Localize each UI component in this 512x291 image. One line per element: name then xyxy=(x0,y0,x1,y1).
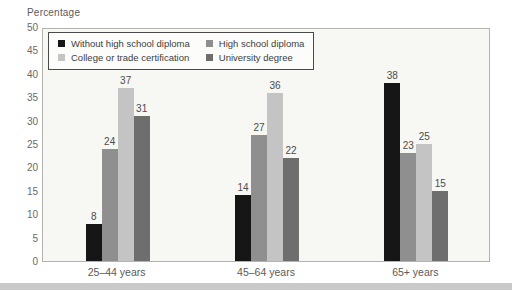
bar-value-label: 37 xyxy=(120,75,131,86)
y-tick-label: 35 xyxy=(8,92,38,104)
bar: 8 xyxy=(86,224,102,261)
bar-value-label: 25 xyxy=(419,131,430,142)
bar-group-65+-years: 38232515 xyxy=(384,83,448,261)
bar-group-45-64-years: 14273622 xyxy=(235,93,299,261)
bar: 25 xyxy=(416,144,432,261)
legend-swatch-icon xyxy=(206,40,213,47)
legend-swatch-icon xyxy=(58,40,65,47)
legend-label: University degree xyxy=(219,52,293,63)
bar: 27 xyxy=(251,135,267,261)
x-axis-label: 25–44 years xyxy=(88,266,146,278)
legend-entry: University degree xyxy=(206,52,305,63)
legend-entry: High school diploma xyxy=(206,38,305,49)
y-tick-label: 50 xyxy=(8,22,38,34)
bar: 23 xyxy=(400,153,416,261)
education-percentage-chart: Percentage 05101520253035404550 Without … xyxy=(0,0,512,291)
bar-value-label: 36 xyxy=(269,80,280,91)
bar-value-label: 38 xyxy=(387,70,398,81)
y-tick-label: 45 xyxy=(8,45,38,57)
bar: 31 xyxy=(134,116,150,261)
legend-label: High school diploma xyxy=(219,38,305,49)
bar: 36 xyxy=(267,93,283,261)
bar-group-25-44-years: 8243731 xyxy=(86,88,150,261)
bar-value-label: 22 xyxy=(285,145,296,156)
bar: 37 xyxy=(118,88,134,261)
bar: 22 xyxy=(283,158,299,261)
legend-swatch-icon xyxy=(58,54,65,61)
y-tick-label: 30 xyxy=(8,116,38,128)
legend: Without high school diplomaHigh school d… xyxy=(48,32,314,70)
bar-value-label: 27 xyxy=(253,122,264,133)
legend-label: College or trade certification xyxy=(71,52,189,63)
bar-value-label: 8 xyxy=(91,211,97,222)
bar: 15 xyxy=(432,191,448,261)
legend-entry: College or trade certification xyxy=(58,52,190,63)
bar-value-label: 14 xyxy=(237,182,248,193)
bar-value-label: 31 xyxy=(136,103,147,114)
bar: 14 xyxy=(235,195,251,261)
bar-value-label: 23 xyxy=(403,140,414,151)
y-tick-label: 40 xyxy=(8,69,38,81)
y-tick-label: 10 xyxy=(8,209,38,221)
x-axis-label: 65+ years xyxy=(392,266,438,278)
y-tick-label: 15 xyxy=(8,186,38,198)
bar-value-label: 24 xyxy=(104,136,115,147)
legend-swatch-icon xyxy=(206,54,213,61)
bar: 24 xyxy=(102,149,118,261)
bar-value-label: 15 xyxy=(435,178,446,189)
y-tick-label: 0 xyxy=(8,256,38,268)
y-axis-title: Percentage xyxy=(27,7,80,18)
y-tick-label: 5 xyxy=(8,233,38,245)
x-axis-label: 45–64 years xyxy=(237,266,295,278)
bottom-divider-band xyxy=(0,283,512,290)
plot-area: Without high school diplomaHigh school d… xyxy=(42,28,490,262)
y-tick-label: 20 xyxy=(8,162,38,174)
y-tick-label: 25 xyxy=(8,139,38,151)
legend-label: Without high school diploma xyxy=(71,38,190,49)
legend-entry: Without high school diploma xyxy=(58,38,190,49)
bar: 38 xyxy=(384,83,400,261)
